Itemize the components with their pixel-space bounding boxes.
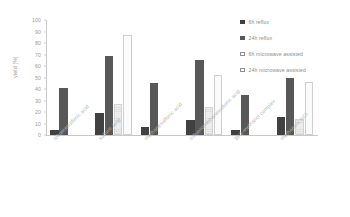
y-axis-tick-mark bbox=[44, 66, 46, 67]
y-axis-tick-label: 100 bbox=[32, 17, 41, 23]
y-axis-tick-mark bbox=[44, 43, 46, 44]
legend-item-24h-microwave-assisted[interactable]: 24h microwave assisted bbox=[240, 62, 348, 78]
legend-item-6h-reflux[interactable]: 6h reflux bbox=[240, 14, 348, 30]
legend-item-6h-microwave-assisted[interactable]: 6h microwave assisted bbox=[240, 46, 348, 62]
y-axis-tick-label: 70 bbox=[35, 52, 41, 58]
y-axis-tick-mark bbox=[44, 123, 46, 124]
bar[interactable] bbox=[305, 82, 314, 135]
y-axis-tick-label: 20 bbox=[35, 109, 41, 115]
y-axis-tick-mark bbox=[44, 100, 46, 101]
x-axis-line bbox=[46, 135, 318, 136]
bar[interactable] bbox=[123, 35, 132, 135]
y-axis-title: yield [%] bbox=[12, 56, 18, 78]
bar-chart: yield [%] 1009080706050403020100 toluene… bbox=[0, 0, 350, 217]
y-axis-tick-mark bbox=[44, 89, 46, 90]
y-axis-tick-label: 0 bbox=[38, 132, 41, 138]
y-axis-tick-mark bbox=[44, 135, 46, 136]
y-axis-tick-label: 80 bbox=[35, 40, 41, 46]
legend: 6h reflux 24h reflux 6h microwave assist… bbox=[240, 14, 348, 78]
legend-item-label: 6h microwave assisted bbox=[249, 51, 304, 57]
y-axis-tick-mark bbox=[44, 20, 46, 21]
legend-item-label: 24h microwave assisted bbox=[249, 67, 307, 73]
legend-swatch-icon bbox=[240, 52, 245, 57]
y-axis-tick-label: 40 bbox=[35, 86, 41, 92]
y-axis-tick-label: 30 bbox=[35, 98, 41, 104]
y-axis-tick-label: 50 bbox=[35, 75, 41, 81]
legend-swatch-icon bbox=[240, 68, 245, 73]
y-axis-tick-label: 10 bbox=[35, 121, 41, 127]
y-axis-tick-mark bbox=[44, 77, 46, 78]
legend-swatch-icon bbox=[240, 20, 245, 25]
legend-item-label: 24h reflux bbox=[249, 35, 273, 41]
y-axis-tick-label: 60 bbox=[35, 63, 41, 69]
y-axis-tick-mark bbox=[44, 54, 46, 55]
legend-item-label: 6h reflux bbox=[249, 19, 270, 25]
y-axis-tick-label: 90 bbox=[35, 29, 41, 35]
y-axis-tick-mark bbox=[44, 112, 46, 113]
legend-item-24h-reflux[interactable]: 24h reflux bbox=[240, 30, 348, 46]
y-axis-tick-mark bbox=[44, 31, 46, 32]
y-axis-line bbox=[46, 20, 47, 135]
legend-swatch-icon bbox=[240, 36, 245, 41]
